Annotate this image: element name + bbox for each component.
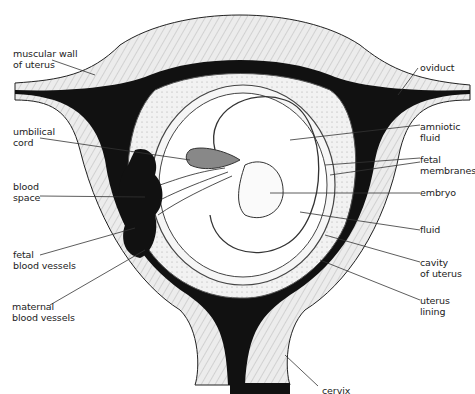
- label-umbilical-cord: umbilical cord: [13, 127, 55, 148]
- cervix-canal: [230, 383, 290, 394]
- label-blood-space: blood space: [13, 182, 40, 203]
- uterus-diagram: muscular wall of uterus umbilical cord b…: [0, 0, 475, 394]
- label-uterus-lining: uterus lining: [420, 296, 450, 317]
- label-muscular-wall: muscular wall of uterus: [13, 49, 77, 70]
- label-amniotic-fluid: amniotic fluid: [420, 122, 460, 143]
- label-oviduct: oviduct: [420, 63, 454, 74]
- label-embryo: embryo: [420, 188, 456, 199]
- label-cervix: cervix: [322, 386, 350, 394]
- label-cavity-of-uterus: cavity of uterus: [420, 258, 462, 279]
- label-fluid: fluid: [420, 225, 440, 236]
- label-fetal-membranes: fetal membranes: [420, 155, 475, 176]
- label-maternal-blood-vessels: maternal blood vessels: [12, 302, 75, 323]
- label-fetal-blood-vessels: fetal blood vessels: [13, 250, 76, 271]
- embryo: [239, 162, 284, 218]
